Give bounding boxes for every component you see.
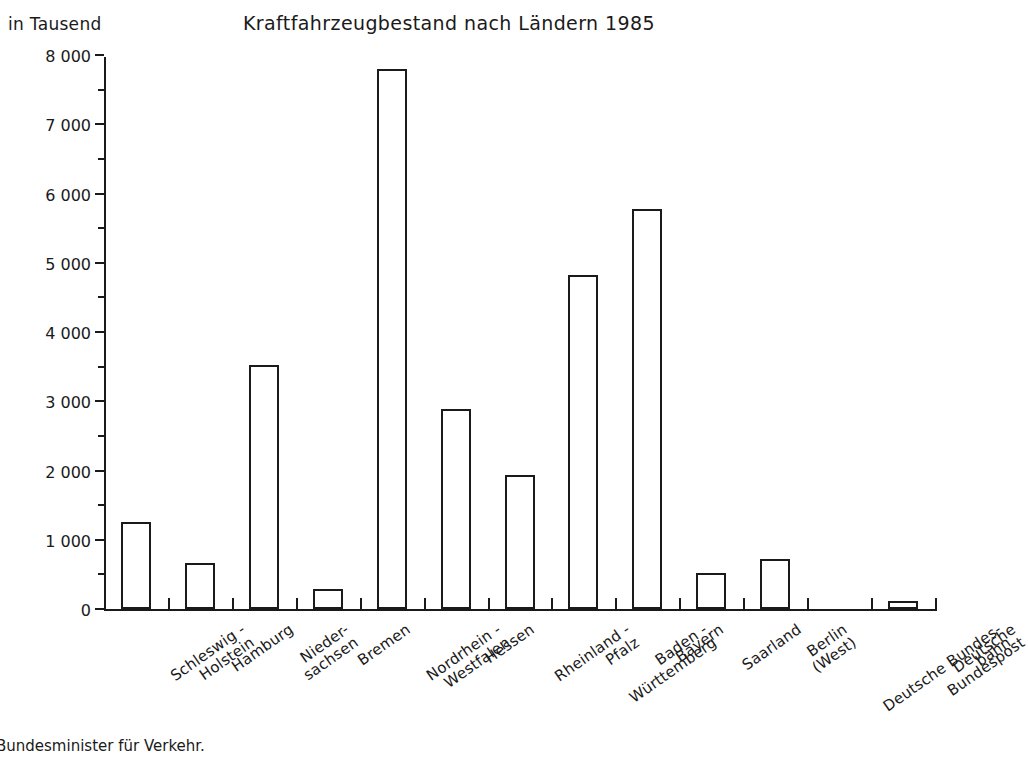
x-category-label: Nieder- sachsen: [291, 621, 361, 683]
x-tick: [935, 598, 937, 611]
y-tick-major: [95, 608, 104, 610]
x-tick: [615, 598, 617, 611]
y-tick-label: 1 000: [45, 532, 91, 551]
x-tick: [871, 598, 873, 611]
y-tick-major: [95, 193, 104, 195]
x-tick: [679, 598, 681, 611]
bar: [249, 365, 279, 609]
y-tick-label: 7 000: [45, 116, 91, 135]
y-tick-major: [95, 470, 104, 472]
source-note: Bundesminister für Verkehr.: [0, 737, 205, 755]
y-tick-major: [95, 54, 104, 56]
bar: [632, 209, 662, 609]
y-tick-major: [95, 123, 104, 125]
y-tick-minor: [98, 435, 104, 437]
x-axis-line: [104, 609, 935, 611]
x-tick: [743, 598, 745, 611]
y-axis-line: [104, 57, 106, 611]
y-tick-label: 6 000: [45, 186, 91, 205]
bar: [313, 589, 343, 609]
x-tick: [296, 598, 298, 611]
x-category-label: Bremen: [355, 621, 413, 669]
x-tick: [551, 598, 553, 611]
x-tick: [807, 598, 809, 611]
bar: [185, 563, 215, 609]
y-tick-minor: [98, 573, 104, 575]
y-tick-minor: [98, 158, 104, 160]
bar: [568, 275, 598, 609]
bar: [505, 475, 535, 609]
y-tick-label: 2 000: [45, 463, 91, 482]
y-tick-minor: [98, 366, 104, 368]
y-tick-minor: [98, 89, 104, 91]
y-tick-major: [95, 539, 104, 541]
y-tick-minor: [98, 296, 104, 298]
y-tick-label: 0: [81, 601, 91, 620]
x-tick: [488, 598, 490, 611]
y-tick-label: 5 000: [45, 255, 91, 274]
x-category-label: Saarland: [740, 621, 805, 673]
y-tick-label: 4 000: [45, 324, 91, 343]
x-tick: [424, 598, 426, 611]
y-tick-label: 8 000: [45, 47, 91, 66]
y-tick-major: [95, 331, 104, 333]
x-tick: [232, 598, 234, 611]
bar: [121, 522, 151, 609]
x-tick: [168, 598, 170, 611]
bar: [377, 69, 407, 609]
y-axis-unit-label: in Tausend: [8, 14, 102, 34]
y-tick-label: 3 000: [45, 393, 91, 412]
y-tick-major: [95, 262, 104, 264]
y-tick-minor: [98, 504, 104, 506]
bar: [696, 573, 726, 609]
bar: [760, 559, 790, 609]
x-category-label: Berlin (West): [800, 621, 859, 676]
bar: [441, 409, 471, 609]
x-tick: [104, 598, 106, 611]
bar: [888, 601, 918, 609]
y-tick-minor: [98, 227, 104, 229]
chart-title: Kraftfahrzeugbestand nach Ländern 1985: [243, 12, 655, 34]
plot-area: [104, 57, 935, 611]
y-tick-major: [95, 400, 104, 402]
x-tick: [360, 598, 362, 611]
